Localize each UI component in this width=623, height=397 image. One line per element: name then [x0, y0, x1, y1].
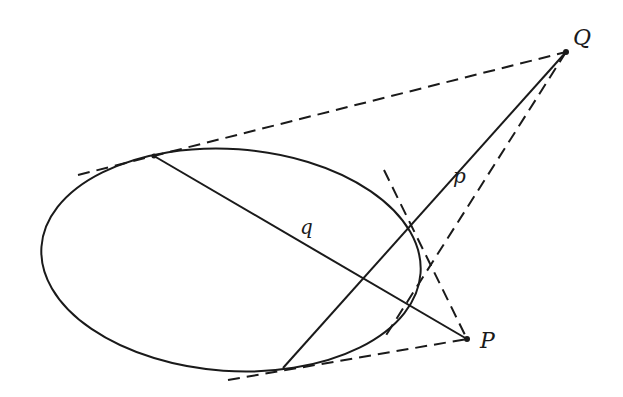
ellipse	[34, 136, 429, 384]
point-P	[464, 336, 470, 342]
point-Q	[563, 49, 569, 55]
label-Q: Q	[573, 25, 591, 50]
tangent-P-lower	[228, 339, 467, 380]
pole-polar-diagram: Q P p q	[0, 0, 623, 397]
label-q: q	[300, 215, 313, 239]
tangent-point-1	[152, 154, 157, 159]
tangent-Q-lower	[383, 52, 566, 340]
tangent-Q-upper	[78, 52, 566, 175]
polar-line-q	[154, 156, 467, 339]
polar-line-p	[283, 52, 566, 368]
label-p: p	[453, 164, 466, 188]
label-P: P	[479, 328, 496, 353]
